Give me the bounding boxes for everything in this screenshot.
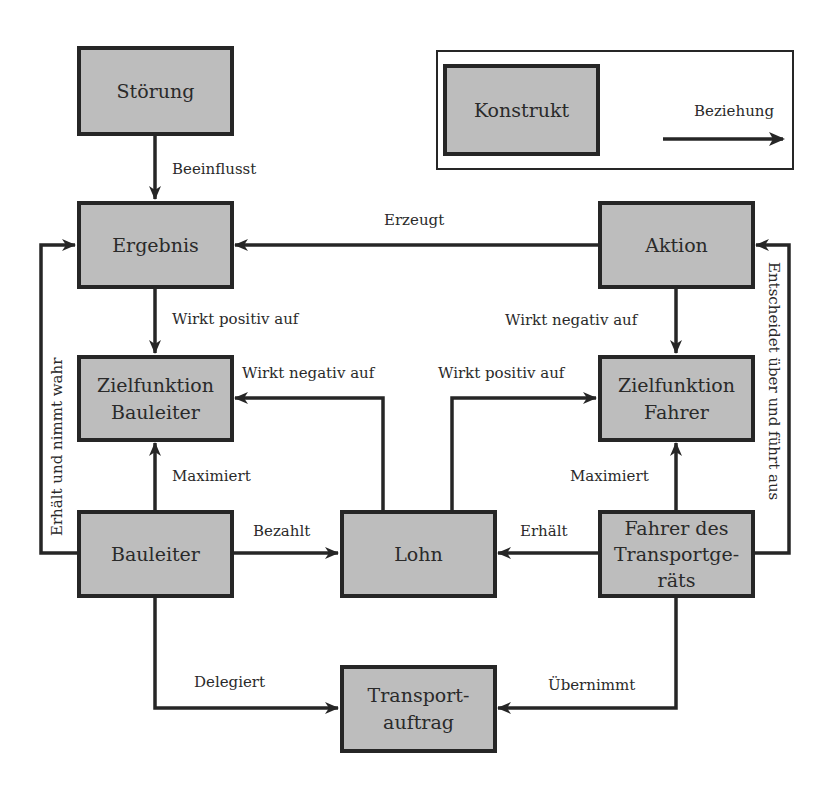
node-ergebnis: Ergebnis xyxy=(77,201,234,289)
node-lohn-label: Lohn xyxy=(394,541,443,568)
edge-label-ergebnis-zfb: Wirkt positiv auf xyxy=(172,310,298,328)
edge-label-bezahlt: Bezahlt xyxy=(253,522,310,540)
arrow-lohn-zfb xyxy=(235,398,383,510)
node-bauleiter: Bauleiter xyxy=(77,510,234,598)
edge-label-aktion-zff: Wirkt negativ auf xyxy=(505,311,637,329)
legend: Konstrukt Beziehung xyxy=(436,50,794,170)
edge-label-uebernimmt: Übernimmt xyxy=(548,676,635,694)
node-zielfunktion-fahrer-label: Zielfunktion Fahrer xyxy=(618,372,735,426)
node-lohn: Lohn xyxy=(340,510,497,598)
node-fahrer-label: Fahrer des Transportge- räts xyxy=(614,515,739,593)
edge-label-delegiert: Delegiert xyxy=(194,673,265,691)
node-zielfunktion-fahrer: Zielfunktion Fahrer xyxy=(598,355,755,442)
edge-label-beeinflusst: Beeinflusst xyxy=(172,160,256,178)
edge-label-erzeugt: Erzeugt xyxy=(384,211,444,229)
edge-label-fahrer-zff: Maximiert xyxy=(570,467,649,485)
edge-label-entscheidet-fuehrt-aus: Entscheidet über und führt aus xyxy=(765,262,783,500)
node-stoerung-label: Störung xyxy=(117,78,195,105)
node-fahrer: Fahrer des Transportge- räts xyxy=(598,510,755,598)
node-aktion: Aktion xyxy=(598,201,755,289)
edge-label-erhaelt: Erhält xyxy=(520,522,568,540)
legend-construct-box: Konstrukt xyxy=(443,64,600,156)
node-stoerung: Störung xyxy=(77,46,234,136)
node-ergebnis-label: Ergebnis xyxy=(112,232,199,259)
legend-construct-label: Konstrukt xyxy=(474,97,569,124)
node-transportauftrag-label: Transport- auftrag xyxy=(368,682,470,736)
arrow-lohn-zff xyxy=(452,398,596,510)
node-zielfunktion-bauleiter-label: Zielfunktion Bauleiter xyxy=(97,372,214,426)
arrow-bauleiter-auftrag xyxy=(155,597,338,708)
edge-label-erhaelt-nimmt-wahr: Erhält und nimmt wahr xyxy=(48,358,66,536)
edge-label-lohn-zfb: Wirkt negativ auf xyxy=(242,364,374,382)
edge-label-bauleiter-zfb: Maximiert xyxy=(172,467,251,485)
node-transportauftrag: Transport- auftrag xyxy=(340,665,497,753)
legend-arrow-icon xyxy=(663,132,788,146)
node-zielfunktion-bauleiter: Zielfunktion Bauleiter xyxy=(77,355,234,442)
node-bauleiter-label: Bauleiter xyxy=(111,541,200,568)
node-aktion-label: Aktion xyxy=(645,232,708,259)
legend-relation-label: Beziehung xyxy=(694,102,774,120)
edge-label-lohn-zff: Wirkt positiv auf xyxy=(438,364,564,382)
